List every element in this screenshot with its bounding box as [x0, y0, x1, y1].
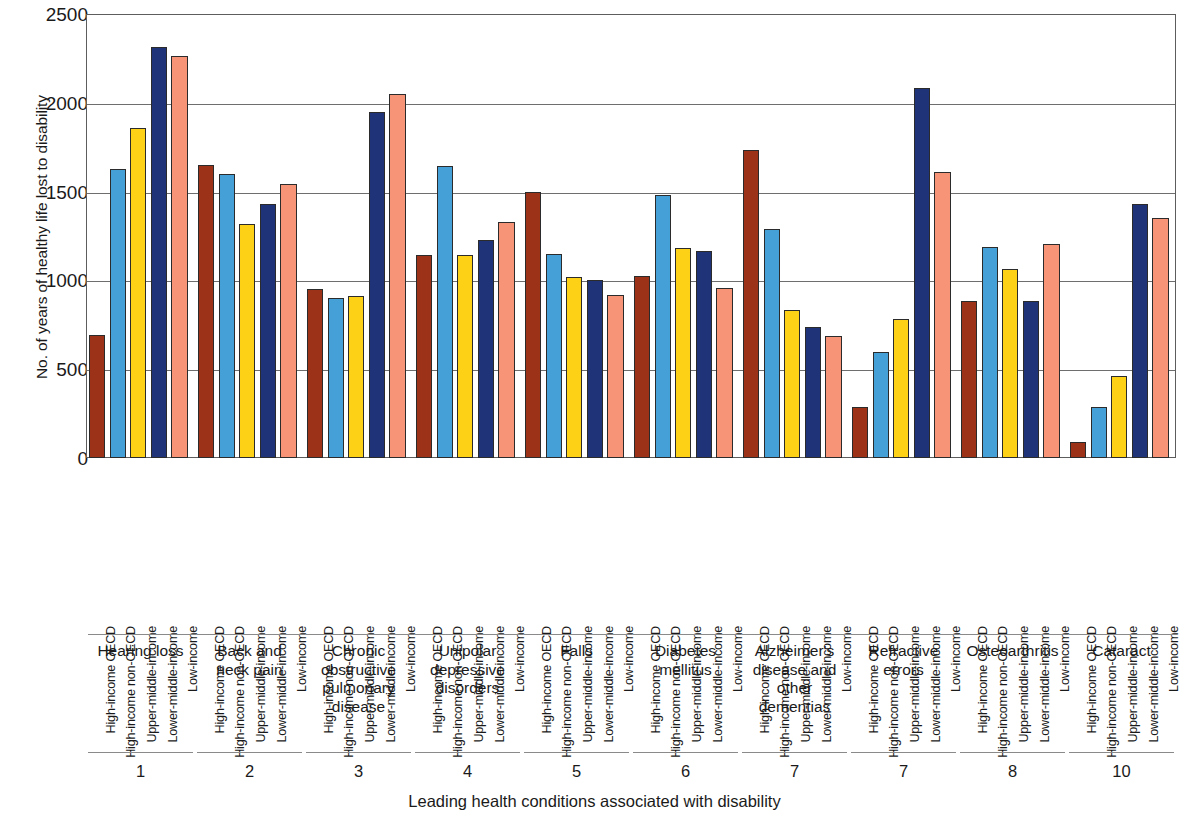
y-axis-title: No. of years of healthy life lost to dis… — [33, 27, 51, 447]
bar — [764, 229, 780, 458]
condition-rank: 3 — [306, 752, 411, 781]
y-tick-label-2500: 2500 — [8, 5, 88, 24]
bar — [587, 280, 603, 458]
condition-label: Osteoarthritis — [960, 634, 1065, 661]
bar — [437, 166, 453, 458]
condition-rank: 10 — [1069, 752, 1174, 781]
bar — [1070, 442, 1086, 458]
y-tick-label-0: 0 — [8, 449, 88, 468]
condition-label: Cataract — [1069, 634, 1174, 661]
bar — [873, 352, 889, 458]
bar — [1091, 407, 1107, 459]
bar — [198, 165, 214, 458]
bar — [1111, 376, 1127, 458]
bar — [1132, 204, 1148, 458]
condition-rank: 6 — [633, 752, 738, 781]
bar — [696, 251, 712, 458]
condition-rank-band: 12345677810 — [86, 752, 1176, 788]
bar — [110, 169, 126, 458]
condition-rank: 7 — [742, 752, 847, 781]
bar — [151, 47, 167, 458]
bar — [498, 222, 514, 458]
condition-rank: 2 — [197, 752, 302, 781]
y-tick-label-1000: 1000 — [8, 271, 88, 290]
bar — [675, 248, 691, 458]
bar-chart: No. of years of healthy life lost to dis… — [0, 0, 1189, 823]
condition-label: Alzheimer'sdisease andotherdementias — [742, 634, 847, 716]
bar — [914, 88, 930, 458]
condition-rank: 8 — [960, 752, 1065, 781]
bar — [805, 327, 821, 458]
bar — [239, 224, 255, 458]
bar — [348, 296, 364, 459]
bar — [389, 94, 405, 458]
bar — [784, 310, 800, 458]
bar — [457, 255, 473, 458]
condition-rank: 4 — [415, 752, 520, 781]
bar — [634, 276, 650, 458]
condition-label: Hearing loss — [88, 634, 193, 661]
y-tick-label-500: 500 — [8, 360, 88, 379]
x-axis-title: Leading health conditions associated wit… — [0, 792, 1189, 811]
condition-label: Chronicobstructivepulmonarydisease — [306, 634, 411, 716]
bar — [280, 184, 296, 458]
bar — [478, 240, 494, 458]
condition-label: Unipolardepressivedisorders — [415, 634, 520, 698]
condition-label: Diabetesmellitus — [633, 634, 738, 679]
bar — [307, 289, 323, 458]
bar — [1043, 244, 1059, 458]
condition-name-band: Hearing lossBack andneck painChronicobst… — [86, 634, 1176, 752]
bars-layer — [86, 14, 1176, 458]
bar — [171, 56, 187, 458]
bar — [1023, 301, 1039, 458]
condition-rank: 5 — [524, 752, 629, 781]
bar — [743, 150, 759, 458]
condition-label: Refractiveerrors — [851, 634, 956, 679]
bar — [546, 254, 562, 458]
condition-label: Falls — [524, 634, 629, 661]
bar — [328, 298, 344, 458]
bar — [1152, 218, 1168, 458]
bar — [260, 204, 276, 458]
bar — [525, 192, 541, 458]
condition-label: Back andneck pain — [197, 634, 302, 679]
bar — [219, 174, 235, 458]
bar — [369, 112, 385, 458]
bar — [1002, 269, 1018, 458]
bar — [566, 277, 582, 458]
bar — [416, 255, 432, 458]
bar — [607, 295, 623, 458]
bar — [852, 407, 868, 459]
condition-rank: 1 — [88, 752, 193, 781]
condition-rank: 7 — [851, 752, 956, 781]
x-axis-income-group-labels: High-income OECDHigh-income non-OECDUppe… — [86, 458, 1176, 628]
bar — [982, 247, 998, 458]
bar — [961, 301, 977, 458]
bar — [130, 128, 146, 458]
bar — [716, 288, 732, 458]
y-tick-label-1500: 1500 — [8, 183, 88, 202]
bar — [934, 172, 950, 458]
bar — [89, 335, 105, 458]
y-tick-label-2000: 2000 — [8, 94, 88, 113]
bar — [655, 195, 671, 458]
bar — [893, 319, 909, 458]
bar — [825, 336, 841, 458]
